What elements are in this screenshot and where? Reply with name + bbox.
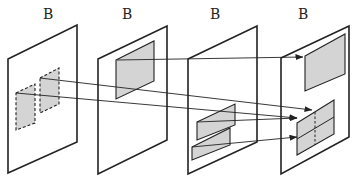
panel-3 bbox=[188, 26, 257, 174]
panel-1-label: B bbox=[43, 6, 53, 22]
diagram-svg bbox=[0, 0, 355, 178]
panel-2-frame bbox=[98, 26, 167, 174]
panel-4 bbox=[281, 26, 349, 174]
panel-2 bbox=[98, 26, 167, 174]
panel-4-label: B bbox=[298, 6, 308, 22]
panel-3-label: B bbox=[210, 6, 220, 22]
panels-layer bbox=[8, 25, 349, 174]
arrow-panel1-right-to-panel4 bbox=[40, 78, 312, 110]
diagram-canvas: B B B B bbox=[0, 0, 355, 178]
panel-1 bbox=[8, 25, 77, 173]
panel-2-label: B bbox=[122, 6, 132, 22]
